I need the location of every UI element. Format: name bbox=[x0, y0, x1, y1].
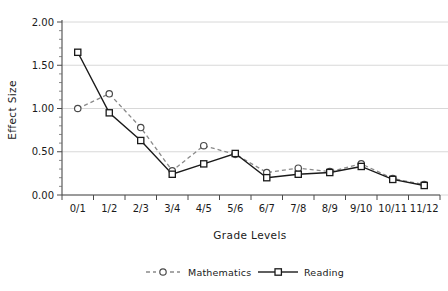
x-axis-title: Grade Levels bbox=[213, 229, 286, 241]
x-tick-label: 7/8 bbox=[290, 203, 306, 214]
y-tick-label: 1.00 bbox=[32, 103, 54, 114]
y-tick-label: 0.00 bbox=[32, 190, 54, 201]
data-point-marker-reading bbox=[264, 175, 270, 181]
legend-marker-circle-icon bbox=[160, 269, 166, 275]
data-point-marker-reading bbox=[327, 169, 333, 175]
legend-marker-square-icon bbox=[275, 269, 281, 275]
data-point-marker-mathematics bbox=[106, 91, 112, 97]
legend-label-reading: Reading bbox=[304, 267, 344, 278]
data-point-marker-mathematics bbox=[138, 124, 144, 130]
legend-label-mathematics: Mathematics bbox=[188, 267, 251, 278]
x-tick-label: 8/9 bbox=[322, 203, 338, 214]
x-tick-label: 0/1 bbox=[70, 203, 86, 214]
data-point-marker-reading bbox=[390, 176, 396, 182]
data-point-marker-reading bbox=[169, 171, 175, 177]
x-tick-label: 6/7 bbox=[259, 203, 275, 214]
x-tick-label: 11/12 bbox=[410, 203, 439, 214]
effect-size-line-chart: 0/11/22/33/44/55/66/77/88/99/1010/1111/1… bbox=[0, 0, 448, 291]
data-point-marker-reading bbox=[295, 171, 301, 177]
y-tick-label: 0.50 bbox=[32, 146, 54, 157]
x-tick-label: 5/6 bbox=[227, 203, 243, 214]
data-point-marker-reading bbox=[138, 137, 144, 143]
y-axis-title: Effect Size bbox=[6, 80, 18, 140]
x-tick-label: 1/2 bbox=[101, 203, 117, 214]
data-point-marker-mathematics bbox=[201, 142, 207, 148]
data-point-marker-reading bbox=[421, 182, 427, 188]
data-point-marker-reading bbox=[106, 110, 112, 116]
data-point-marker-reading bbox=[201, 161, 207, 167]
y-tick-label: 1.50 bbox=[32, 60, 54, 71]
data-point-marker-reading bbox=[358, 163, 364, 169]
data-point-marker-reading bbox=[75, 49, 81, 55]
y-tick-label: 2.00 bbox=[32, 17, 54, 28]
chart-background bbox=[0, 0, 448, 291]
chart-figure: 0/11/22/33/44/55/66/77/88/99/1010/1111/1… bbox=[0, 0, 448, 291]
x-tick-label: 4/5 bbox=[196, 203, 212, 214]
data-point-marker-mathematics bbox=[75, 105, 81, 111]
x-tick-label: 10/11 bbox=[378, 203, 407, 214]
data-point-marker-mathematics bbox=[295, 165, 301, 171]
x-tick-label: 2/3 bbox=[133, 203, 149, 214]
data-point-marker-reading bbox=[232, 150, 238, 156]
x-tick-label: 3/4 bbox=[164, 203, 180, 214]
x-tick-label: 9/10 bbox=[350, 203, 372, 214]
